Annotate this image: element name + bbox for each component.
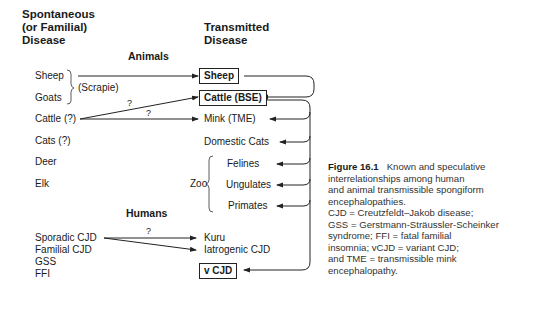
- figure-label: Figure 16.1: [328, 161, 379, 172]
- left-sporadic-cjd: Sporadic CJD: [35, 232, 97, 244]
- left-elk: Elk: [35, 178, 49, 190]
- right-domestic-cats: Domestic Cats: [204, 136, 269, 148]
- right-primates: Primates: [228, 200, 267, 212]
- left-sheep: Sheep: [35, 70, 64, 82]
- box-vcjd: v CJD: [199, 263, 237, 279]
- caption-line-2: interrelationships among human: [328, 173, 533, 185]
- right-iatrogenic-cjd: Iatrogenic CJD: [204, 244, 270, 256]
- caption-line-5: CJD = Creutzfeldt–Jakob disease;: [328, 207, 533, 219]
- right-kuru: Kuru: [204, 232, 225, 244]
- caption-line-9: and TME = transmissible mink: [328, 253, 533, 265]
- left-deer: Deer: [35, 156, 57, 168]
- figure-caption: Figure 16.1 Known and speculative interr…: [328, 161, 533, 276]
- caption-line-4: encephalopathies.: [328, 196, 533, 208]
- right-ungulates: Ungulates: [226, 179, 271, 191]
- caption-line-1: Known and speculative: [387, 161, 486, 172]
- left-gss: GSS: [35, 256, 56, 268]
- box-cattle-bse: Cattle (BSE): [199, 90, 267, 106]
- box-sheep: Sheep: [199, 68, 239, 84]
- left-cattle: Cattle (?): [35, 113, 76, 125]
- question-cattle-mink: ?: [146, 108, 151, 118]
- left-ffi: FFI: [35, 268, 50, 280]
- left-familial-cjd: Familial CJD: [35, 244, 92, 256]
- question-sporadic-kuru: ?: [146, 226, 151, 236]
- right-felines: Felines: [227, 158, 259, 170]
- caption-line-3: and animal transmissible spongiform: [328, 184, 533, 196]
- left-cats: Cats (?): [35, 135, 71, 147]
- scrapie-label: (Scrapie): [78, 82, 119, 94]
- caption-line-6: GSS = Gerstmann-Sträussler-Scheinker: [328, 219, 533, 231]
- caption-line-7: syndrome; FFI = fatal familial: [328, 230, 533, 242]
- zoo-label: Zoo: [190, 178, 207, 190]
- question-cattle-bse: ?: [127, 98, 132, 108]
- caption-line-10: encephalopathy.: [328, 265, 533, 277]
- right-mink: Mink (TME): [204, 113, 256, 125]
- caption-line-8: insomnia; vCJD = variant CJD;: [328, 242, 533, 254]
- left-goats: Goats: [35, 92, 62, 104]
